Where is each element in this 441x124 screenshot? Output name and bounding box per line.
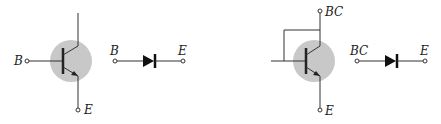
right-transistor: BC E (271, 5, 343, 118)
left-transistor: B E (13, 13, 93, 117)
cathode-terminal (423, 59, 427, 63)
diode-cathode-label: E (177, 44, 187, 58)
emitter-label: E (324, 104, 334, 118)
diode-triangle-icon (143, 55, 154, 67)
left-diode-equivalent: B E (109, 44, 187, 68)
cathode-terminal (181, 59, 185, 63)
diode-cathode-label: E (419, 44, 429, 58)
diode-anode-label: BC (349, 44, 368, 58)
emitter-terminal (318, 108, 322, 112)
base-terminal (25, 59, 29, 63)
anode-terminal (355, 59, 359, 63)
transistor-diode-diagram: B E B E (0, 0, 441, 124)
base-label: B (13, 54, 23, 68)
diode-triangle-icon (385, 55, 396, 67)
emitter-label: E (83, 103, 93, 117)
anode-terminal (113, 59, 117, 63)
diode-anode-label: B (109, 44, 119, 58)
right-diode-equivalent: BC E (349, 44, 429, 68)
diagram-canvas: B E B E (0, 0, 441, 124)
collector-label: BC (324, 5, 343, 19)
emitter-terminal (76, 108, 80, 112)
collector-terminal (318, 9, 322, 13)
